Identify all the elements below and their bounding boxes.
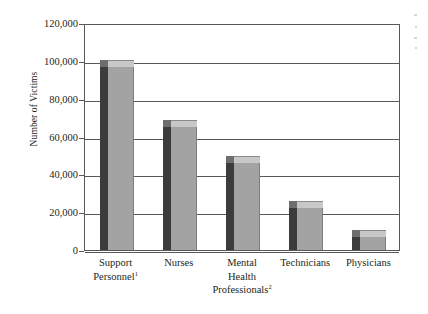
bar-front-face bbox=[297, 208, 323, 250]
y-tick-label: 20,000 bbox=[22, 208, 78, 219]
footnote-marker: 1 bbox=[135, 269, 138, 276]
plot-area bbox=[84, 24, 400, 251]
bar-chart-figure: Number of Victims 020,00040,00060,00080,… bbox=[0, 0, 428, 314]
bar bbox=[226, 156, 260, 250]
bar-top-bevel bbox=[352, 230, 360, 237]
x-category-label-line: Professionals2 bbox=[182, 283, 302, 297]
scan-artifact bbox=[415, 47, 417, 49]
footnote-marker: 2 bbox=[268, 283, 271, 290]
bar-side-face bbox=[163, 127, 171, 250]
y-tick-label: 0 bbox=[22, 246, 78, 257]
y-tick-label: 60,000 bbox=[22, 133, 78, 144]
bar-top-face bbox=[234, 156, 260, 163]
x-category-label: Physicians bbox=[308, 256, 428, 270]
bar-top-bevel bbox=[226, 156, 234, 163]
scan-artifact bbox=[415, 26, 417, 28]
bar bbox=[163, 120, 197, 250]
bar-front-face bbox=[108, 67, 134, 250]
scan-artifact bbox=[414, 14, 417, 16]
bar-side-face bbox=[100, 67, 108, 250]
bar-top-face bbox=[297, 201, 323, 208]
y-tick-label: 120,000 bbox=[22, 19, 78, 30]
bar-front-face bbox=[171, 127, 197, 250]
y-tick-label: 40,000 bbox=[22, 170, 78, 181]
bar bbox=[352, 230, 386, 250]
bar-top-bevel bbox=[289, 201, 297, 208]
bar bbox=[289, 201, 323, 250]
bar-side-face bbox=[226, 163, 234, 250]
bar-top-face bbox=[108, 60, 134, 67]
bar-top-face bbox=[171, 120, 197, 127]
bar-front-face bbox=[360, 237, 386, 250]
bar-front-face bbox=[234, 163, 260, 250]
y-tick-label: 100,000 bbox=[22, 57, 78, 68]
scan-artifact bbox=[414, 37, 417, 39]
y-tick-mark bbox=[79, 251, 84, 252]
x-category-label-line: Health bbox=[182, 270, 302, 284]
x-axis-category-labels: SupportPersonnel1NursesMentalHealthProfe… bbox=[84, 256, 400, 314]
gridline bbox=[85, 252, 399, 253]
y-tick-label: 80,000 bbox=[22, 95, 78, 106]
bar-top-face bbox=[360, 230, 386, 237]
bar bbox=[100, 60, 134, 250]
bar-side-face bbox=[289, 208, 297, 250]
bar-top-bevel bbox=[100, 60, 108, 67]
bar-side-face bbox=[352, 237, 360, 250]
x-category-label-line: Personnel1 bbox=[56, 270, 176, 284]
x-category-label-line: Physicians bbox=[308, 256, 428, 270]
bar-top-bevel bbox=[163, 120, 171, 127]
